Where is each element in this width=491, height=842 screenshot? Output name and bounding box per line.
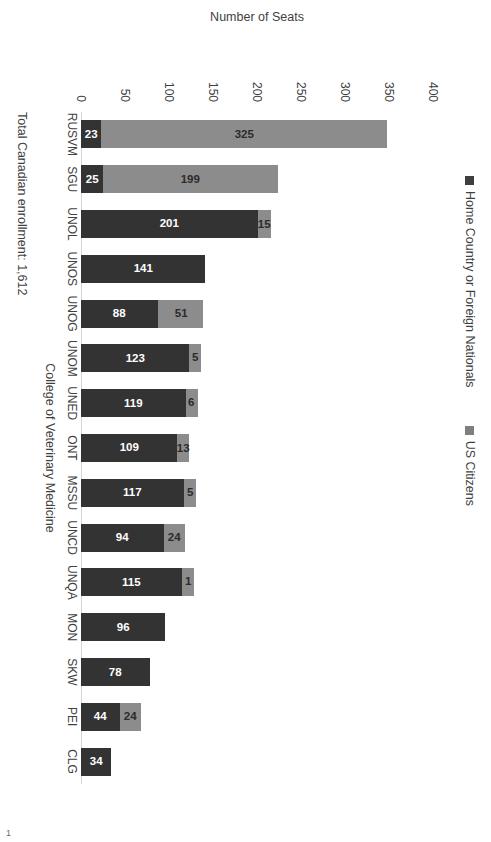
bar-slot: 13109 bbox=[81, 426, 433, 471]
bar-slot: 2494 bbox=[81, 515, 433, 560]
legend-swatch-home-country bbox=[466, 176, 475, 185]
legend-label-us-citizens: US Citizens bbox=[463, 441, 477, 506]
bar-stack[interactable]: 34 bbox=[81, 748, 111, 776]
bar-segment-home-country[interactable]: 123 bbox=[81, 344, 189, 372]
bar-segment-us-citizens[interactable]: 24 bbox=[164, 524, 185, 552]
category-axis-label: MON bbox=[57, 605, 79, 650]
plot-area: 3252319925152011415188512361191310951172… bbox=[81, 112, 433, 784]
value-axis-tick: 400 bbox=[426, 82, 440, 102]
bar-stack[interactable]: 5188 bbox=[81, 300, 203, 328]
bar-value-label: 96 bbox=[117, 621, 130, 633]
bar-value-label: 199 bbox=[181, 173, 200, 185]
legend-item-us-citizens: US Citizens bbox=[463, 426, 477, 506]
bar-segment-home-country[interactable]: 78 bbox=[81, 658, 150, 686]
bar-stack[interactable]: 2444 bbox=[81, 703, 141, 731]
bar-stack[interactable]: 6119 bbox=[81, 389, 198, 417]
bar-value-label: 6 bbox=[189, 397, 195, 409]
page-number: 1 bbox=[6, 828, 11, 838]
value-axis-tick: 250 bbox=[294, 82, 308, 102]
bar-value-label: 25 bbox=[86, 173, 99, 185]
bar-value-label: 109 bbox=[119, 442, 138, 454]
bar-segment-us-citizens[interactable]: 1 bbox=[182, 568, 194, 596]
bar-slot: 2444 bbox=[81, 694, 433, 739]
bar-value-label: 325 bbox=[235, 129, 254, 141]
chart-legend: Home Country or Foreign Nationals US Cit… bbox=[463, 176, 477, 506]
category-axis-label: UNED bbox=[57, 381, 79, 426]
bar-segment-home-country[interactable]: 115 bbox=[81, 568, 182, 596]
category-axis-label: MSSU bbox=[57, 470, 79, 515]
bar-segment-us-citizens[interactable]: 5 bbox=[184, 479, 196, 507]
value-axis-tick: 300 bbox=[338, 82, 352, 102]
bar-segment-home-country[interactable]: 23 bbox=[81, 120, 101, 148]
bar-value-label: 24 bbox=[124, 711, 137, 723]
bar-segment-home-country[interactable]: 109 bbox=[81, 434, 177, 462]
value-axis-tick: 350 bbox=[382, 82, 396, 102]
bar-value-label: 15 bbox=[258, 218, 271, 230]
category-axis-label: UNOG bbox=[57, 291, 79, 336]
bar-stack[interactable]: 19925 bbox=[81, 165, 278, 193]
category-axis-label: SGU bbox=[57, 157, 79, 202]
bar-segment-home-country[interactable]: 117 bbox=[81, 479, 184, 507]
bar-segment-home-country[interactable]: 119 bbox=[81, 389, 186, 417]
bar-value-label: 34 bbox=[90, 756, 103, 768]
bar-value-label: 94 bbox=[116, 532, 129, 544]
bar-segment-home-country[interactable]: 88 bbox=[81, 300, 158, 328]
bar-value-label: 23 bbox=[85, 129, 98, 141]
bar-stack[interactable]: 1115 bbox=[81, 568, 194, 596]
bar-segment-us-citizens[interactable]: 24 bbox=[120, 703, 141, 731]
legend-item-home-country: Home Country or Foreign Nationals bbox=[463, 176, 477, 388]
bar-stack[interactable]: 32523 bbox=[81, 120, 387, 148]
category-axis-label: PEI bbox=[57, 694, 79, 739]
bar-stack[interactable]: 96 bbox=[81, 613, 165, 641]
bar-segment-us-citizens[interactable]: 13 bbox=[177, 434, 189, 462]
bar-slot: 96 bbox=[81, 605, 433, 650]
bar-stack[interactable]: 15201 bbox=[81, 210, 271, 238]
bar-segment-us-citizens[interactable]: 199 bbox=[103, 165, 278, 193]
bar-slot: 34 bbox=[81, 739, 433, 784]
category-axis-label: RUSVM bbox=[57, 112, 79, 157]
bar-slot: 19925 bbox=[81, 157, 433, 202]
value-axis-tick: 200 bbox=[250, 82, 264, 102]
bar-value-label: 24 bbox=[168, 532, 181, 544]
bar-stack[interactable]: 13109 bbox=[81, 434, 189, 462]
bar-slot: 5117 bbox=[81, 470, 433, 515]
bar-slot: 1115 bbox=[81, 560, 433, 605]
bar-segment-home-country[interactable]: 96 bbox=[81, 613, 165, 641]
bar-slot: 5188 bbox=[81, 291, 433, 336]
bar-stack[interactable]: 5123 bbox=[81, 344, 201, 372]
bar-value-label: 115 bbox=[122, 577, 141, 589]
value-axis-tick: 0 bbox=[74, 95, 88, 102]
chart-area: Home Country or Foreign Nationals US Cit… bbox=[0, 0, 491, 842]
bar-value-label: 51 bbox=[174, 308, 187, 320]
bar-segment-home-country[interactable]: 34 bbox=[81, 748, 111, 776]
bar-segment-home-country[interactable]: 141 bbox=[81, 255, 205, 283]
bar-segment-us-citizens[interactable]: 6 bbox=[186, 389, 198, 417]
bar-value-label: 1 bbox=[185, 577, 191, 589]
bar-segment-us-citizens[interactable]: 15 bbox=[258, 210, 271, 238]
bar-slot: 141 bbox=[81, 246, 433, 291]
bar-segment-us-citizens[interactable]: 325 bbox=[101, 120, 387, 148]
bar-slot: 78 bbox=[81, 650, 433, 695]
value-axis-title: Number of Seats bbox=[81, 8, 433, 26]
bar-segment-us-citizens[interactable]: 51 bbox=[158, 300, 203, 328]
bar-segment-us-citizens[interactable]: 5 bbox=[189, 344, 201, 372]
category-axis-title: College of Veterinary Medicine bbox=[43, 112, 57, 784]
bar-segment-home-country[interactable]: 44 bbox=[81, 703, 120, 731]
bar-value-label: 141 bbox=[133, 263, 152, 275]
bar-series-container: 3252319925152011415188512361191310951172… bbox=[81, 112, 433, 784]
value-axis-tick: 150 bbox=[206, 82, 220, 102]
value-axis: 400350300250200150100500 bbox=[81, 56, 433, 108]
bar-segment-home-country[interactable]: 201 bbox=[81, 210, 258, 238]
bar-value-label: 44 bbox=[94, 711, 107, 723]
category-axis-label: UNOL bbox=[57, 202, 79, 247]
bar-stack[interactable]: 2494 bbox=[81, 524, 185, 552]
bar-stack[interactable]: 78 bbox=[81, 658, 150, 686]
bar-segment-home-country[interactable]: 94 bbox=[81, 524, 164, 552]
bar-stack[interactable]: 141 bbox=[81, 255, 205, 283]
bar-segment-home-country[interactable]: 25 bbox=[81, 165, 103, 193]
bar-stack[interactable]: 5117 bbox=[81, 479, 196, 507]
legend-label-home-country: Home Country or Foreign Nationals bbox=[463, 191, 477, 388]
bar-value-label: 88 bbox=[113, 308, 126, 320]
category-axis-label: UNQA bbox=[57, 560, 79, 605]
bar-value-label: 5 bbox=[192, 353, 198, 365]
